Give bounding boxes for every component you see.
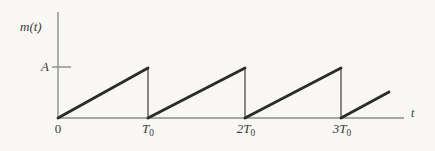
ramp-segment-1: [58, 68, 148, 118]
plot-canvas: [0, 0, 435, 151]
x-axis-label: t: [411, 107, 414, 119]
ramp-segment-2: [148, 68, 245, 118]
xtick-label-3T0: 3T0: [333, 122, 351, 138]
amplitude-label: A: [41, 60, 49, 73]
xtick-label-0: 0: [55, 122, 62, 138]
ramp-segment-3: [245, 68, 341, 118]
y-axis-label: m(t): [20, 20, 42, 33]
ramp-segment-4: [341, 92, 389, 118]
sawtooth-waveform-figure: m(t) A t 0 T0 2T0 3T0: [0, 0, 435, 151]
xtick-label-2T0: 2T0: [237, 122, 255, 138]
xtick-label-T0: T0: [142, 122, 154, 138]
